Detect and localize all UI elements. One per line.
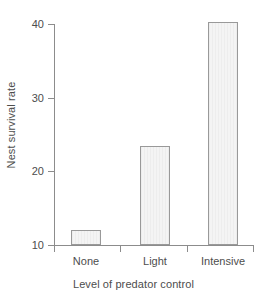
x-axis-line [54,245,254,246]
y-tick-mark-20 [48,171,54,172]
y-tick-mark-30 [48,98,54,99]
y-axis-line [54,24,55,246]
x-tick-mark-0 [54,246,55,252]
y-tick-label-10: 10 [18,239,44,251]
y-axis-title: Nest survival rate [0,0,22,250]
y-axis-title-text: Nest survival rate [5,82,17,169]
bar-none [71,230,101,246]
bar-light [140,146,170,245]
x-tick-mark-1 [120,246,121,252]
y-tick-mark-40 [48,24,54,25]
x-axis-title: Level of predator control [0,278,267,290]
y-tick-label-40: 40 [18,18,44,30]
bar-chart-figure: Nest survival rate 40 30 20 10 None Ligh… [0,0,267,299]
x-category-label-light: Light [120,255,190,267]
x-tick-mark-2 [187,246,188,252]
x-category-label-none: None [51,255,121,267]
x-tick-mark-3 [253,246,254,252]
bar-intensive [208,22,238,245]
x-category-label-intensive: Intensive [188,255,258,267]
y-tick-label-30: 30 [18,92,44,104]
y-tick-label-20: 20 [18,165,44,177]
